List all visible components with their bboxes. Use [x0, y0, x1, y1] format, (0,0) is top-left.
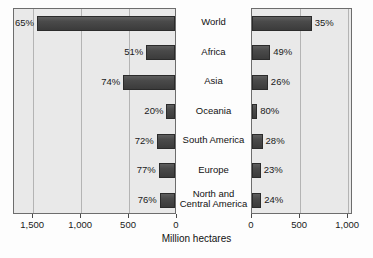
bar-row: 76% [14, 186, 175, 215]
bar-value-label: 35% [315, 15, 334, 30]
bar-row: 24% [252, 186, 351, 215]
bar-value-label: 76% [138, 192, 157, 207]
bar-row: 49% [252, 38, 351, 67]
axis-tick [32, 214, 33, 218]
axis-tick-label: 0 [248, 219, 253, 230]
bar-value-label: 23% [264, 162, 283, 177]
category-label-south-america: South America [178, 126, 249, 155]
bar-row: 65% [14, 9, 175, 38]
bar-value-label: 28% [266, 133, 285, 148]
bar-row: 26% [252, 68, 351, 97]
bar-value-label: 72% [135, 133, 154, 148]
axis-tick [128, 214, 129, 218]
bar-row: 23% [252, 156, 351, 185]
bar-row: 74% [14, 68, 175, 97]
left-plot-panel: 65%51%74%20%72%77%76% [13, 8, 176, 214]
category-label-world: World [178, 8, 249, 37]
category-label-column: WorldAfricaAsiaOceaniaSouth AmericaEurop… [178, 8, 249, 214]
back-to-back-bar-chart: 65%51%74%20%72%77%76% WorldAfricaAsiaOce… [0, 0, 373, 258]
left-x-axis: 1,5001,0005000 [13, 214, 176, 228]
bar-value-label: 49% [273, 44, 292, 59]
right-plot-panel: 35%49%26%80%28%23%24% [251, 8, 352, 214]
bar-right-europe [252, 163, 261, 178]
category-label-europe: Europe [178, 155, 249, 184]
bar-value-label: 20% [144, 103, 163, 118]
bar-value-label: 51% [124, 44, 143, 59]
bar-row: 51% [14, 38, 175, 67]
x-axis-title-text: Million hectares [162, 233, 231, 244]
bar-right-oceania [252, 104, 257, 119]
category-label-oceania: Oceania [178, 96, 249, 125]
bar-row: 20% [14, 97, 175, 126]
bar-value-label: 74% [101, 74, 120, 89]
axis-tick [251, 214, 252, 218]
axis-tick [176, 214, 177, 218]
axis-tick-label: 1,000 [335, 219, 359, 230]
bar-value-label: 26% [271, 74, 290, 89]
axis-tick-label: 0 [173, 219, 178, 230]
axis-tick-label: 500 [120, 219, 136, 230]
axis-tick-label: 1,000 [68, 219, 92, 230]
bar-left-south-america [157, 134, 175, 149]
bar-row: 28% [252, 127, 351, 156]
bar-right-asia [252, 75, 268, 90]
bar-row: 72% [14, 127, 175, 156]
axis-tick [80, 214, 81, 218]
axis-tick [347, 214, 348, 218]
bar-left-africa [146, 45, 175, 60]
bar-right-north-and-central-america [252, 193, 261, 208]
bar-right-south-america [252, 134, 263, 149]
axis-tick-label: 500 [291, 219, 307, 230]
bar-left-world [37, 16, 175, 31]
bar-value-label: 24% [264, 192, 283, 207]
category-label-north-and-central-america: North and Central America [178, 185, 249, 214]
bar-left-oceania [166, 104, 175, 119]
category-label-asia: Asia [178, 67, 249, 96]
axis-tick-label: 1,500 [20, 219, 44, 230]
bar-value-label: 80% [260, 103, 279, 118]
bar-left-north-and-central-america [160, 193, 175, 208]
bar-right-world [252, 16, 312, 31]
right-x-axis: 05001,000 [251, 214, 352, 228]
bar-row: 80% [252, 97, 351, 126]
bar-value-label: 65% [15, 15, 34, 30]
bar-left-asia [123, 75, 175, 90]
category-label-africa: Africa [178, 37, 249, 66]
x-axis-title: Million hectares [0, 233, 373, 244]
bar-row: 77% [14, 156, 175, 185]
bar-right-africa [252, 45, 270, 60]
axis-tick [299, 214, 300, 218]
bar-row: 35% [252, 9, 351, 38]
bar-left-europe [159, 163, 175, 178]
bar-value-label: 77% [137, 162, 156, 177]
